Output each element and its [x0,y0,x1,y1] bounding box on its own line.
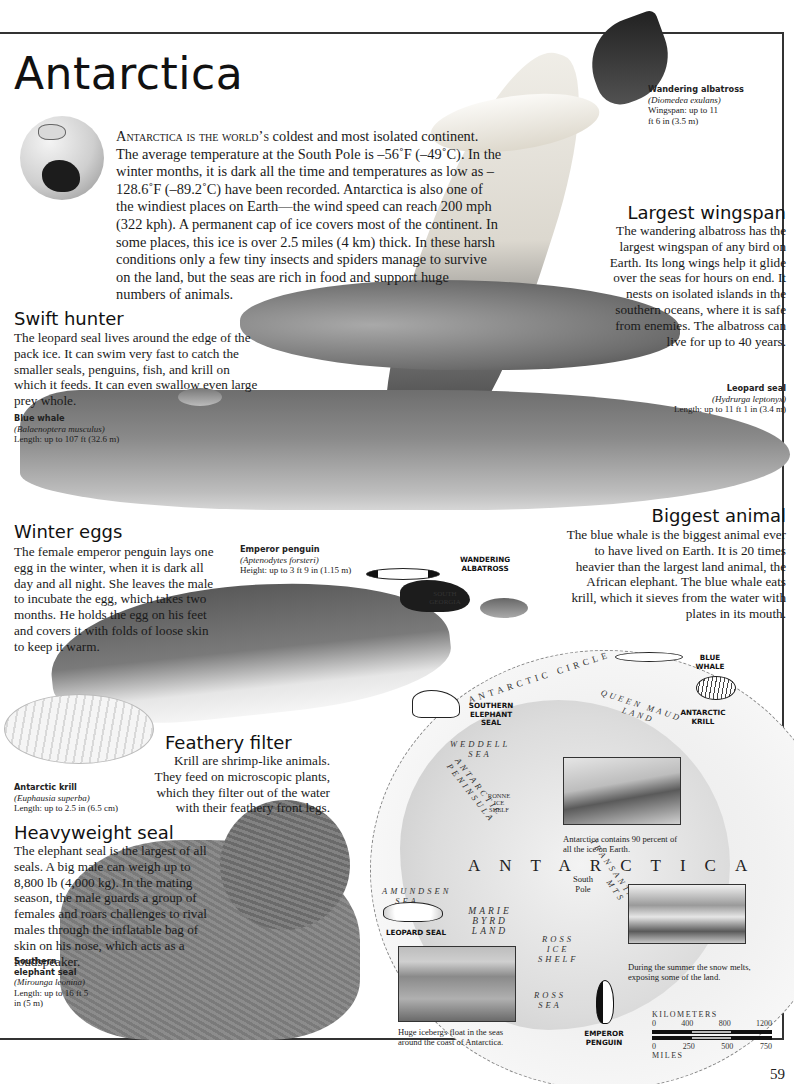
label-southern-elephant-seal: SOUTHERN ELEPHANT SEAL [466,702,516,728]
scale-bar-miles [652,1036,772,1040]
heading-feathery-filter: Feathery filter [165,732,292,753]
emperor-penguin-map-icon [596,980,614,1024]
globe-icon [20,116,104,200]
text-biggest-animal: The blue whale is the biggest animal eve… [566,527,786,622]
australia-shape [38,124,66,140]
heading-heavyweight-seal: Heavyweight seal [14,822,174,843]
text-heavyweight-seal: The elephant seal is the largest of all … [14,843,214,969]
label-leopard-seal: LEOPARD SEAL [386,929,446,938]
label-south-pole: South Pole [568,874,598,895]
scale-tick: 250 [683,1042,695,1051]
caption-size: Length: up to 107 ft (32.6 m) [14,434,184,445]
caption-name: Blue whale [14,413,184,424]
map-scale-bar: KILOMETERS 0 400 800 1200 0 250 500 750 … [652,1010,772,1060]
heading-biggest-animal: Biggest animal [560,505,786,526]
text-largest-wingspan: The wandering albatross has the largest … [603,223,786,349]
scale-tick: 0 [652,1042,656,1051]
scale-tick: 1200 [756,1019,772,1028]
leopard-seal-map-icon [383,902,443,922]
page-frame-top [0,32,784,34]
antarctica-shape [42,160,80,192]
heading-winter-eggs: Winter eggs [14,521,122,542]
caption-size: Length: up to 16 ft 5 in (5 m) [14,988,94,1009]
elephant-seal-head [220,800,350,930]
text-swift-hunter: The leopard seal lives around the edge o… [14,330,264,409]
page-title: Antarctica [14,48,243,99]
label-emperor-penguin: EMPEROR PENGUIN [582,1030,626,1047]
krill-illustration [4,694,154,764]
text-feathery-filter: Krill are shrimp-like animals. They feed… [144,753,330,816]
intro-lead: Antarctica is the world’s [116,128,269,144]
caption-scientific: (Hydrurga leptonyx) [600,394,786,405]
caption-size: Wingspan: up to 11 ft 6 in (3.5 m) [648,105,724,126]
albatross-map-icon [366,568,440,580]
scale-miles-label: MILES [652,1051,772,1060]
label-ross-sea: ROSS SEA [530,990,570,1010]
caption-scientific: (Balaenoptera musculus) [14,424,184,435]
caption-scientific: (Aptenodytes forsteri) [240,555,390,566]
caption-name: Wandering albatross [648,84,778,95]
text-winter-eggs: The female emperor penguin lays one egg … [14,544,216,655]
intro-text: coldest and most isolated continent. The… [116,128,501,302]
blue-whale-caption: Blue whale (Balaenoptera musculus) Lengt… [14,413,184,445]
caption-name: Leopard seal [600,383,786,394]
label-blue-whale: BLUE WHALE [690,654,730,671]
photo-summer-melt [628,884,746,944]
scale-tick: 800 [719,1019,731,1028]
scale-km-ticks: 0 400 800 1200 [652,1019,772,1028]
krill-caption: Antarctic krill (Euphausia superba) Leng… [14,782,144,814]
caption-size: Length: up to 2.5 in (6.5 cm) [14,803,144,814]
scale-bar-km [652,1030,772,1034]
heading-swift-hunter: Swift hunter [14,308,124,329]
page-number: 59 [770,1066,785,1083]
caption-name: Emperor penguin [240,544,390,555]
scale-km-label: KILOMETERS [652,1010,772,1019]
scale-tick: 400 [681,1019,693,1028]
caption-size: Length: up to 11 ft 1 in (3.4 m) [600,404,786,415]
label-ross-ice-shelf: ROSS ICE SHELF [538,934,578,964]
photo-ice-landscape [563,757,681,825]
scale-tick: 0 [652,1019,656,1028]
caption-name: Southern elephant seal [14,956,94,977]
intro-paragraph: Antarctica is the world’s coldest and mo… [116,128,502,304]
heading-largest-wingspan: Largest wingspan [600,202,786,223]
label-ronne-ice-shelf: RONNE ICE SHELF [484,792,514,813]
caption-scientific: (Diomedea exulans) [648,95,778,106]
fish-illustration [480,598,528,618]
scale-tick: 500 [721,1042,733,1051]
albatross-caption: Wandering albatross (Diomedea exulans) W… [648,84,778,126]
label-marie-byrd-land: MARIE BYRD LAND [455,906,525,936]
caption-photo-summer: During the summer the snow melts, exposi… [628,962,752,983]
elephant-seal-map-icon [412,690,460,718]
krill-map-icon [696,676,736,700]
label-south-georgia: SOUTH GEORGIA [420,590,470,606]
label-wandering-albatross: WANDERING ALBATROSS [450,556,520,573]
caption-photo-icebergs: Huge icebergs float in the seas around t… [398,1027,522,1048]
caption-scientific: (Euphausia superba) [14,793,144,804]
emperor-penguin-caption: Emperor penguin (Aptenodytes forsteri) H… [240,544,390,576]
scale-tick: 750 [760,1042,772,1051]
leopard-seal-caption: Leopard seal (Hydrurga leptonyx) Length:… [600,383,786,415]
elephant-seal-caption: Southern elephant seal (Mirounga leonina… [14,956,94,1009]
photo-icebergs [398,946,516,1022]
caption-scientific: (Mirounga leonina) [14,977,94,988]
blue-whale-map-icon [615,652,683,662]
scale-mile-ticks: 0 250 500 750 [652,1042,772,1051]
caption-name: Antarctic krill [14,782,144,793]
